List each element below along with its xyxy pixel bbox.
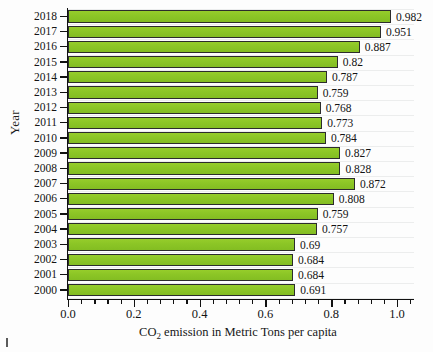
y-axis-tick-label: 2015 [17, 55, 57, 70]
x-axis-major-tick [200, 300, 201, 307]
bar[interactable] [68, 208, 318, 220]
y-axis-tick-label: 2000 [17, 283, 57, 298]
bar-value-label: 0.808 [339, 192, 365, 207]
bar-value-label: 0.759 [323, 86, 349, 101]
x-axis-minor-tick [371, 300, 372, 304]
x-axis-minor-tick [160, 300, 161, 304]
y-axis-tick-label: 2005 [17, 207, 57, 222]
bar-row[interactable]: 20140.787 [0, 70, 433, 85]
bar-row[interactable]: 20130.759 [0, 85, 433, 100]
bar-row[interactable]: 20180.982 [0, 9, 433, 24]
bar-value-label: 0.691 [300, 283, 326, 298]
y-axis-tick-label: 2012 [17, 100, 57, 115]
bar[interactable] [68, 284, 295, 296]
x-axis-minor-tick [410, 300, 411, 304]
x-axis-minor-tick [226, 300, 227, 304]
y-axis-tick-label: 2004 [17, 222, 57, 237]
bar[interactable] [68, 117, 322, 129]
x-axis-minor-tick [94, 300, 95, 304]
bar-row[interactable]: 20030.69 [0, 237, 433, 252]
y-axis-tick-mark [60, 259, 68, 260]
bar-row[interactable]: 20150.82 [0, 55, 433, 70]
bar-value-label: 0.982 [396, 10, 422, 25]
y-axis-tick-mark [60, 289, 68, 290]
x-axis-minor-tick [186, 300, 187, 304]
bar[interactable] [68, 56, 338, 68]
bar[interactable] [68, 86, 318, 98]
bar[interactable] [68, 238, 295, 250]
bar-value-label: 0.757 [322, 222, 348, 237]
y-axis-tick-mark [60, 46, 68, 47]
bar-row[interactable]: 20120.768 [0, 100, 433, 115]
y-axis-tick-mark [60, 228, 68, 229]
bar-value-label: 0.784 [331, 131, 357, 146]
bar[interactable] [68, 71, 327, 83]
y-axis-tick-mark [60, 213, 68, 214]
bar-value-label: 0.82 [343, 55, 363, 70]
bar-value-label: 0.887 [365, 40, 391, 55]
bar-row[interactable]: 20050.759 [0, 207, 433, 222]
bar[interactable] [68, 147, 340, 159]
bar-value-label: 0.759 [323, 207, 349, 222]
bar-row[interactable]: 20100.784 [0, 131, 433, 146]
y-axis-tick-label: 2008 [17, 161, 57, 176]
bar-row[interactable]: 20170.951 [0, 24, 433, 39]
bar-value-label: 0.827 [345, 146, 371, 161]
x-axis-major-tick [134, 300, 135, 307]
y-axis-tick-mark [60, 107, 68, 108]
bar-value-label: 0.828 [345, 162, 371, 177]
x-axis-major-tick [397, 300, 398, 307]
bar[interactable] [68, 162, 340, 174]
bar-chart-figure: Year 20180.98220170.95120160.88720150.82… [0, 0, 433, 352]
bar-row[interactable]: 20070.872 [0, 176, 433, 191]
y-axis-tick-label: 2006 [17, 191, 57, 206]
y-axis-tick-mark [60, 274, 68, 275]
x-axis-minor-tick [318, 300, 319, 304]
bar-value-label: 0.872 [360, 177, 386, 192]
bar-value-label: 0.684 [298, 268, 324, 283]
x-axis-minor-tick [344, 300, 345, 304]
bar[interactable] [68, 10, 391, 22]
bar-row[interactable]: 20060.808 [0, 191, 433, 206]
bar-row[interactable]: 20160.887 [0, 39, 433, 54]
x-axis-tick-label: 0.6 [245, 307, 285, 322]
bar-row[interactable]: 20080.828 [0, 161, 433, 176]
bar[interactable] [68, 102, 321, 114]
x-axis-minor-tick [252, 300, 253, 304]
bar[interactable] [68, 132, 326, 144]
bar[interactable] [68, 254, 293, 266]
bar[interactable] [68, 193, 334, 205]
bar-value-label: 0.768 [326, 101, 352, 116]
bar[interactable] [68, 223, 317, 235]
bar[interactable] [68, 41, 360, 53]
y-axis-tick-mark [60, 76, 68, 77]
bar-row[interactable]: 20010.684 [0, 267, 433, 282]
x-axis-line [67, 299, 414, 300]
x-axis-minor-tick [173, 300, 174, 304]
bar-value-label: 0.773 [327, 116, 353, 131]
bar-row[interactable]: 20040.757 [0, 222, 433, 237]
bar-row[interactable]: 20020.684 [0, 252, 433, 267]
y-axis-tick-label: 2018 [17, 9, 57, 24]
x-axis-major-tick [265, 300, 266, 307]
bar[interactable] [68, 26, 381, 38]
x-axis-minor-tick [147, 300, 148, 304]
x-axis-minor-tick [213, 300, 214, 304]
bar[interactable] [68, 178, 355, 190]
x-axis-major-tick [68, 300, 69, 307]
bar-value-label: 0.787 [332, 70, 358, 85]
y-axis-tick-mark [60, 183, 68, 184]
y-axis-tick-mark [60, 198, 68, 199]
bar-row[interactable]: 20000.691 [0, 283, 433, 298]
y-axis-tick-label: 2014 [17, 70, 57, 85]
bar[interactable] [68, 269, 293, 281]
y-axis-tick-mark [60, 122, 68, 123]
x-axis-tick-label: 1.0 [377, 307, 417, 322]
x-axis-major-tick [331, 300, 332, 307]
bar-row[interactable]: 20110.773 [0, 115, 433, 130]
x-axis-minor-tick [107, 300, 108, 304]
x-axis-minor-tick [121, 300, 122, 304]
y-axis-tick-mark [60, 244, 68, 245]
bar-row[interactable]: 20090.827 [0, 146, 433, 161]
x-axis-minor-tick [239, 300, 240, 304]
